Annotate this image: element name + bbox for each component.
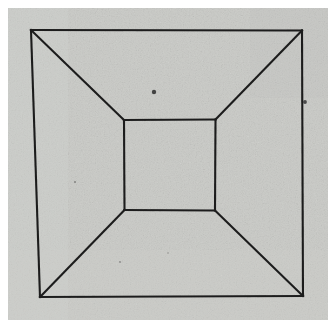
print-speck-upper-middle bbox=[152, 90, 156, 94]
inner-edge-bottom bbox=[125, 210, 216, 211]
inner-edge-top bbox=[124, 120, 216, 121]
inner-edge-right bbox=[215, 120, 216, 211]
paper-tone-topright bbox=[250, 8, 328, 98]
inner-edge-left bbox=[124, 120, 125, 210]
outer-edge-bottom bbox=[40, 296, 303, 297]
line-drawing-svg bbox=[0, 0, 336, 328]
outer-edge-right bbox=[302, 31, 303, 297]
print-speck-lower-left bbox=[119, 261, 121, 263]
paper-tone-bottom bbox=[8, 250, 328, 320]
figure-canvas: Reversible perspective figure A line dra… bbox=[0, 0, 336, 328]
print-speck-left-mid bbox=[74, 181, 76, 183]
outer-edge-top bbox=[31, 30, 302, 31]
print-speck-upper-right bbox=[303, 100, 307, 104]
print-speck-inner-low bbox=[167, 252, 169, 254]
